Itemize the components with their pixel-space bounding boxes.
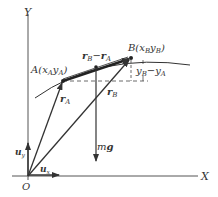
unit-vector-uy-label: uy [15, 147, 26, 159]
y-axis-label: Y [24, 6, 33, 19]
point-A-label: A(xAyA) [30, 64, 68, 77]
vector-rA-label: rA [60, 93, 70, 106]
trajectory-vector-diagram: Y X O A(xAyA) B(xByB) rB−rA yB−yA rA rB … [0, 0, 218, 197]
vector-diff-label: rB−rA [82, 50, 111, 63]
vector-rB-label: rB [107, 86, 117, 99]
unit-vector-ux-label: ux [40, 164, 51, 175]
vector-rB [28, 60, 129, 176]
point-B-label: B(xByB) [127, 42, 165, 55]
x-axis-label: X [200, 170, 210, 183]
point-mass [94, 65, 98, 69]
point-B [129, 56, 133, 60]
delta-y-label: yB−yA [135, 65, 166, 78]
point-A [61, 79, 65, 83]
origin-label: O [22, 181, 30, 192]
vector-rA [28, 83, 62, 176]
vector-mg-label: mg [97, 141, 113, 152]
